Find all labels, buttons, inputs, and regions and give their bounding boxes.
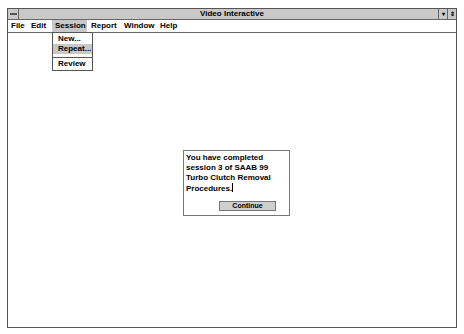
dialog-message: You have completed session 3 of SAAB 99 … [186, 153, 287, 194]
menu-item-new[interactable]: New... [53, 34, 92, 44]
window-title: Video Interactive [8, 9, 456, 19]
text-cursor [232, 183, 233, 192]
menu-item-review[interactable]: Review [53, 59, 92, 69]
menu-help[interactable]: Help [157, 20, 180, 32]
menu-session[interactable]: Session [52, 20, 87, 32]
menu-file[interactable]: File [8, 20, 28, 32]
title-bar: Video Interactive ▾ ⇕ [8, 9, 456, 20]
menu-separator [53, 57, 92, 58]
minimize-button[interactable]: ▾ [438, 9, 447, 19]
menu-item-repeat[interactable]: Repeat... [53, 44, 92, 54]
continue-button[interactable]: Continue [219, 201, 276, 211]
session-dropdown: New... Repeat... Review [52, 32, 93, 71]
menu-edit[interactable]: Edit [28, 20, 49, 32]
maximize-button[interactable]: ⇕ [447, 9, 456, 19]
completion-dialog: You have completed session 3 of SAAB 99 … [183, 150, 290, 216]
message-text: You have completed session 3 of SAAB 99 … [186, 153, 271, 193]
app-window: Video Interactive ▾ ⇕ File Edit Session … [7, 8, 457, 328]
menu-report[interactable]: Report [88, 20, 120, 32]
system-menu-icon[interactable] [8, 9, 19, 19]
menu-window[interactable]: Window [121, 20, 158, 32]
